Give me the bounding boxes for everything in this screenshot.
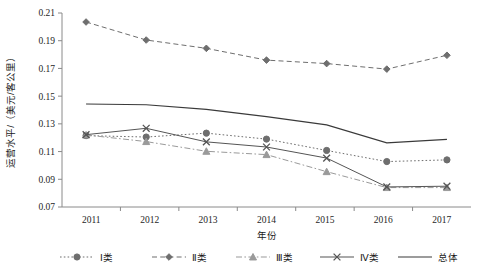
y-tick-label: 0.09 xyxy=(38,175,55,185)
legend-label-4: Ⅳ类 xyxy=(360,252,379,263)
y-tick-label: 0.11 xyxy=(39,147,56,157)
y-tick-label: 0.19 xyxy=(38,36,55,46)
legend-label-1: Ⅰ类 xyxy=(100,252,113,263)
x-tick-label: 2016 xyxy=(374,215,393,225)
x-tick-label: 2017 xyxy=(432,215,451,225)
y-tick-label: 0.21 xyxy=(38,8,55,18)
x-tick-label: 2015 xyxy=(315,215,334,225)
y-tick-label: 0.15 xyxy=(38,92,55,102)
x-tick-label: 2011 xyxy=(82,215,101,225)
data-point-marker xyxy=(203,130,209,136)
legend-label-2: Ⅱ类 xyxy=(192,252,207,263)
data-point-marker xyxy=(143,37,150,44)
y-tick-label: 0.07 xyxy=(38,202,55,212)
legend-label-5: 总体 xyxy=(438,252,458,263)
x-tick-label: 2012 xyxy=(140,215,159,225)
data-point-marker xyxy=(263,57,270,64)
x-axis-title: 年份 xyxy=(257,230,277,241)
line-chart: 0.070.090.110.130.150.170.190.2120112012… xyxy=(0,0,481,274)
y-tick-label: 0.13 xyxy=(38,119,55,129)
y-axis-title: 运营水平/（美元/客公里） xyxy=(5,52,16,167)
data-point-marker xyxy=(444,157,450,163)
data-point-marker xyxy=(384,158,390,164)
chart-container: 0.070.090.110.130.150.170.190.2120112012… xyxy=(0,0,481,274)
data-point-marker xyxy=(383,66,390,73)
legend-marker-2 xyxy=(166,254,173,261)
x-tick-label: 2013 xyxy=(199,215,218,225)
x-tick-label: 2014 xyxy=(257,215,276,225)
data-point-marker xyxy=(323,168,330,174)
legend: Ⅰ类Ⅱ类Ⅲ类Ⅳ类总体 xyxy=(60,252,458,263)
legend-marker-1 xyxy=(74,254,80,260)
axis-frame xyxy=(62,13,471,207)
data-point-marker xyxy=(263,136,269,142)
y-tick-label: 0.17 xyxy=(38,64,55,74)
data-point-marker xyxy=(324,147,330,153)
data-point-marker xyxy=(203,148,210,154)
data-point-marker xyxy=(444,52,451,59)
data-point-marker xyxy=(203,45,210,52)
data-point-marker xyxy=(323,60,330,67)
series-2 xyxy=(83,19,450,73)
legend-label-3: Ⅲ类 xyxy=(276,252,293,263)
data-point-marker xyxy=(83,19,90,26)
